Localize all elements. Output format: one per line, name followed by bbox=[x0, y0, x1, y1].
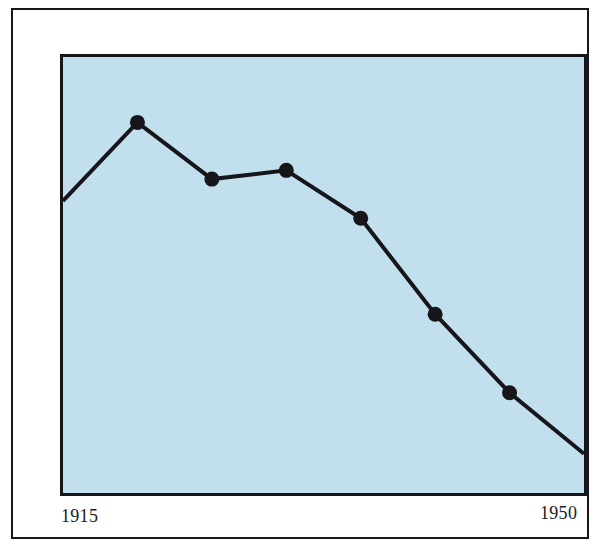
plot-area bbox=[60, 54, 587, 496]
data-point-marker bbox=[130, 115, 145, 130]
data-point-marker bbox=[428, 307, 443, 322]
data-point-marker bbox=[353, 211, 368, 226]
data-point-marker bbox=[279, 163, 294, 178]
x-axis-end-label: 1950 bbox=[540, 504, 577, 522]
data-point-marker bbox=[204, 172, 219, 187]
data-point-markers bbox=[130, 115, 517, 400]
line-chart-figure: 1915 1950 bbox=[0, 0, 601, 549]
data-series-line bbox=[63, 122, 584, 453]
figure-outer-frame: 1915 1950 bbox=[11, 8, 589, 539]
x-axis-start-label: 1915 bbox=[61, 507, 98, 525]
series-plot bbox=[63, 57, 584, 493]
data-point-marker bbox=[502, 385, 517, 400]
